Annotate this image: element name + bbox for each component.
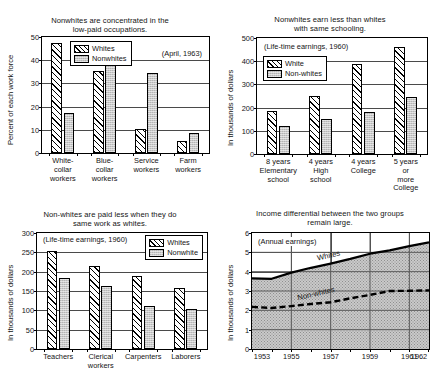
chart-title-schooling: Nonwhites earn less than whites with sam… [220, 15, 440, 34]
x-category-label: Blue- collar workers [92, 157, 118, 183]
bar-schooling-non-whites-1 [321, 119, 332, 154]
x-tick-mark [392, 154, 393, 157]
chart-note: (Life-time earnings, 1960) [42, 235, 128, 244]
x-tick-mark [49, 153, 50, 156]
legend-swatch-stipple [74, 55, 89, 63]
legend-label: Whites [92, 44, 115, 53]
bar-samework-whites-3 [174, 288, 185, 349]
y-tick-label: 0 [30, 345, 37, 354]
legend-occupations: WhitesNonwhites [70, 41, 132, 66]
y-axis-label-schooling: In thousands of dollars [226, 70, 235, 146]
legend-swatch-stipple [149, 249, 164, 257]
chart-note: (Life-time earnings, 1960) [263, 42, 349, 51]
chart-title-line2: same work as whites. [0, 219, 220, 228]
x-tick-mark [420, 154, 421, 157]
bar-samework-whites-1 [89, 266, 100, 349]
y-tick-label: 400 [242, 57, 257, 66]
plot-area-occupations: 01020304050White- collar workersBlue- co… [41, 36, 210, 154]
x-tick-mark [335, 154, 336, 157]
x-category-label: Farm workers [175, 157, 201, 175]
legend-label: Non-whites [285, 69, 322, 78]
chart-panel-occupations: Nonwhites are concentrated in the low-pa… [0, 0, 220, 193]
y-tick-label: 0 [35, 149, 42, 158]
y-tick-label: 50 [31, 33, 42, 42]
chart-panel-differential: Income differential between the two grou… [220, 193, 440, 386]
x-tick-mark [174, 153, 175, 156]
legend-swatch-hatch [267, 60, 282, 68]
y-axis-label-occupations: Percent of each work force [6, 55, 15, 145]
x-category-label: Laborers [171, 353, 200, 362]
y-tick-label: 0 [250, 150, 257, 159]
x-category-label: Carpenters [125, 353, 162, 362]
x-tick-mark [202, 153, 203, 156]
legend-item: Whites [149, 238, 198, 247]
chart-title-line1: Nonwhites earn less than whites [220, 15, 440, 24]
x-tick-mark [350, 349, 351, 352]
y-axis-label-differential: In thousands of dollars [226, 265, 235, 341]
line-series-layer [252, 233, 429, 349]
x-tick-mark [390, 349, 391, 352]
y-tick-label: 4 [245, 267, 252, 276]
y-tick-label: 10 [31, 125, 42, 134]
chart-title-line2: remain large. [220, 218, 440, 227]
x-tick-mark [115, 349, 116, 352]
legend-swatch-hatch [149, 239, 164, 247]
plot-area-differential: 0123456195319551957195919611962WhitesNon… [251, 232, 430, 350]
y-tick-label: 1 [245, 325, 252, 334]
bar-occupations-nonwhites-2 [147, 73, 158, 153]
line-chart-svg [252, 233, 429, 349]
bar-samework-nonwhite-3 [186, 309, 197, 349]
y-tick-label: 300 [242, 80, 257, 89]
bar-schooling-white-1 [309, 96, 320, 154]
bar-samework-nonwhite-0 [59, 278, 70, 349]
bar-occupations-nonwhites-0 [64, 113, 75, 153]
x-tick-mark [160, 153, 161, 156]
y-tick-label: 200 [22, 267, 37, 276]
x-tick-mark [307, 154, 308, 157]
bar-samework-nonwhite-2 [144, 306, 155, 349]
x-tick-mark [118, 153, 119, 156]
x-category-label: Teachers [43, 353, 73, 362]
x-tick-mark [272, 349, 273, 352]
y-tick-label: 250 [22, 248, 37, 257]
x-category-label: 4 years High school [309, 158, 333, 184]
shaded-area-below-whites [252, 242, 429, 349]
chart-title-differential: Income differential between the two grou… [220, 209, 440, 228]
legend-swatch-hatch [74, 45, 89, 53]
y-tick-label: 30 [31, 79, 42, 88]
x-category-label: 5 years or more College [393, 158, 418, 193]
x-year-label: 1962 [411, 352, 427, 361]
legend-label: Whites [167, 238, 190, 247]
y-tick-label: 200 [242, 103, 257, 112]
bar-samework-nonwhite-1 [101, 286, 112, 349]
x-category-label: 4 years College [351, 158, 376, 176]
x-category-label: Clerical workers [88, 353, 114, 371]
plot-area-schooling: 01002003004005008 years Elementary schoo… [256, 37, 428, 155]
bar-schooling-non-whites-3 [406, 97, 417, 154]
legend-swatch-stipple [267, 70, 282, 78]
x-year-label: 1953 [254, 352, 270, 361]
chart-grid: Nonwhites are concentrated in the low-pa… [0, 0, 440, 386]
x-tick-mark [349, 154, 350, 157]
y-tick-label: 150 [22, 287, 37, 296]
gridline-y [37, 272, 207, 273]
x-tick-mark [311, 349, 312, 352]
chart-panel-schooling: Nonwhites earn less than whites with sam… [220, 0, 440, 193]
y-tick-label: 0 [245, 345, 252, 354]
y-tick-label: 6 [245, 229, 252, 238]
bar-schooling-white-0 [267, 111, 278, 154]
x-year-label: 1957 [322, 352, 338, 361]
x-year-label: 1959 [362, 352, 378, 361]
legend-label: White [285, 59, 304, 68]
y-tick-label: 300 [22, 229, 37, 238]
y-axis-label-samework: In thousands of dollars [6, 265, 15, 341]
x-category-label: Service workers [133, 157, 159, 175]
bar-schooling-non-whites-2 [364, 112, 375, 154]
x-tick-mark [428, 349, 429, 352]
legend-item: Nonwhites [74, 54, 127, 63]
legend-label: Nonwhites [92, 54, 127, 63]
bar-schooling-white-3 [394, 47, 405, 154]
chart-title-line1: Income differential between the two grou… [220, 209, 440, 218]
legend-item: White [267, 59, 322, 68]
chart-title-line2: with same schooling. [220, 24, 440, 33]
